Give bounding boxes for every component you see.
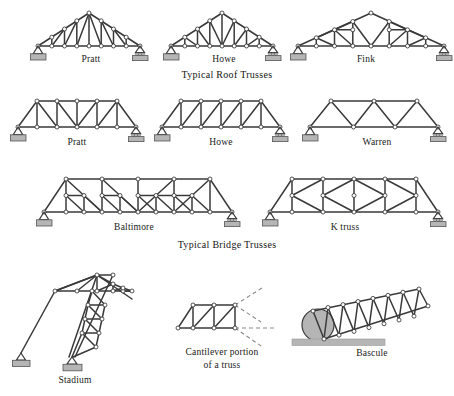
roof-group-caption: Typical Roof Trusses: [182, 69, 273, 80]
bridge-group-caption: Typical Bridge Trusses: [178, 239, 277, 250]
bridge-warren-label: Warren: [363, 137, 392, 147]
roof-fink-label: Fink: [357, 54, 375, 64]
ktruss-label: K truss: [331, 222, 360, 232]
bascule-label: Bascule: [356, 348, 387, 358]
bridge-howe-label: Howe: [209, 137, 233, 147]
truss-diagram-canvas: Pratt: [0, 0, 454, 396]
roof-pratt-label: Pratt: [82, 54, 101, 64]
cantilever-label-line2: of a truss: [204, 360, 241, 370]
bridge-pratt-label: Pratt: [68, 137, 87, 147]
cantilever-label-line1: Cantilever portion: [186, 347, 259, 357]
baltimore-label: Baltimore: [114, 222, 154, 232]
stadium-label: Stadium: [58, 375, 91, 385]
roof-howe-label: Howe: [212, 54, 236, 64]
bascule-ground: [292, 339, 385, 346]
truss-plate-figure: Pratt: [0, 0, 454, 396]
